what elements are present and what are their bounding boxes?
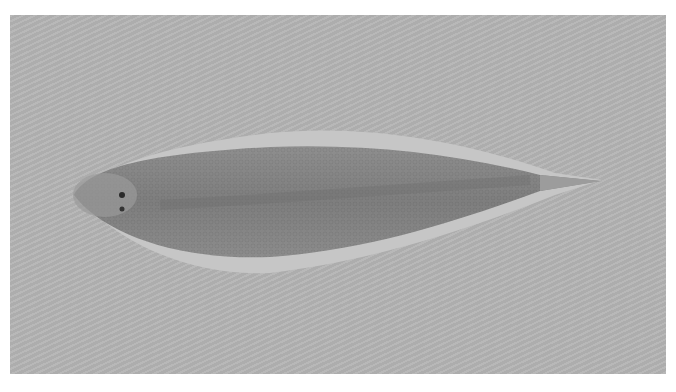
fish-illustration — [10, 15, 666, 374]
fish-eye — [119, 192, 125, 198]
fish-eye — [120, 207, 125, 212]
fish-head — [73, 173, 137, 217]
specimen-photo — [10, 15, 666, 374]
